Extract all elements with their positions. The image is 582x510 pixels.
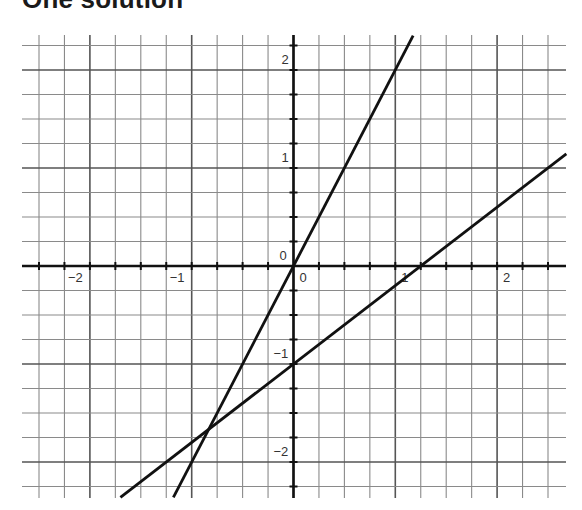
y-tick-label: 0: [280, 248, 287, 263]
coordinate-plane: −2−1012210−1−2: [0, 0, 582, 510]
y-tick-label: −2: [274, 444, 289, 459]
y-tick-label: −1: [274, 346, 289, 361]
x-tick-label: −1: [170, 270, 185, 285]
tick-labels: −2−1012210−1−2: [68, 52, 510, 459]
x-tick-label: 0: [300, 270, 307, 285]
y-tick-label: 1: [282, 150, 289, 165]
x-tick-label: −2: [68, 270, 83, 285]
x-tick-label: 2: [503, 270, 510, 285]
y-tick-label: 2: [282, 52, 289, 67]
line-2: [120, 154, 566, 497]
